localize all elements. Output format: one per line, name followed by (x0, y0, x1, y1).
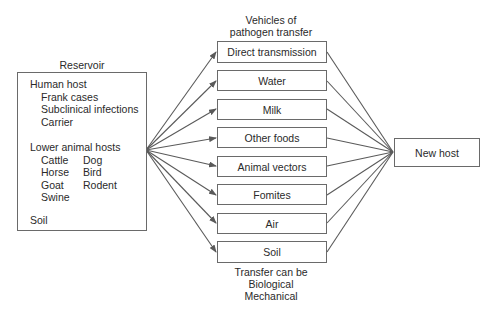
human-host-label: Human host (30, 78, 87, 90)
animal-host-item: Goat (41, 179, 64, 191)
reservoir-soil: Soil (30, 214, 48, 226)
vehicles-title-line1: Vehicles of (206, 14, 336, 26)
transfer-note-line1: Transfer can be (206, 266, 336, 278)
new-host-box: New host (394, 138, 480, 167)
vehicle-milk: Milk (217, 99, 327, 120)
vehicle-soil: Soil (217, 241, 327, 263)
arrow-to-direct-transmission (146, 52, 216, 150)
vehicles-title-line2: pathogen transfer (206, 26, 336, 38)
animal-host-item: Cattle (41, 154, 68, 166)
vehicle-water: Water (217, 70, 327, 91)
reservoir-box: Human host Frank cases Subclinical infec… (17, 72, 147, 231)
arrow-to-soil (146, 150, 216, 252)
animal-host-item: Dog (83, 154, 102, 166)
animal-host-item: Swine (41, 191, 70, 203)
lower-animal-hosts-label: Lower animal hosts (30, 141, 120, 153)
arrow-to-animal-vectors (146, 150, 216, 166)
vehicle-fomites: Fomites (217, 184, 327, 205)
vehicle-air: Air (217, 213, 327, 234)
reservoir-title: Reservoir (17, 59, 147, 71)
vehicle-animal-vectors: Animal vectors (217, 156, 327, 177)
animal-host-item: Horse (41, 166, 69, 178)
arrow-to-fomites (146, 150, 216, 195)
arrow-to-air (146, 150, 216, 223)
vehicle-other-foods: Other foods (217, 127, 327, 148)
animal-host-item: Rodent (83, 179, 117, 191)
human-host-item: Subclinical infections (41, 103, 138, 115)
human-host-item: Frank cases (41, 91, 98, 103)
vehicles-title: Vehicles of pathogen transfer (206, 14, 336, 38)
transfer-note-line2: Biological (206, 278, 336, 290)
animal-host-item: Bird (83, 166, 102, 178)
transfer-note: Transfer can be Biological Mechanical (206, 266, 336, 302)
vehicle-direct-transmission: Direct transmission (217, 41, 327, 63)
human-host-item: Carrier (41, 116, 73, 128)
transfer-note-line3: Mechanical (206, 290, 336, 302)
